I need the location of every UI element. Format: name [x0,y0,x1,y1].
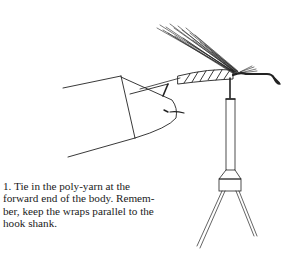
vise-stem-icon [219,99,241,191]
caption-line-1: 1. Tie in the poly-yarn at the [3,180,130,192]
hook-eye-icon [233,73,280,84]
step-caption: 1. Tie in the poly-yarn at the forward e… [3,180,173,230]
body-wraps-icon [178,70,233,84]
poly-yarn-wing-icon [157,24,239,74]
caption-line-2: forward end of the body. Remem- [3,192,155,204]
fingers-icon [63,76,177,157]
vise-legs-icon [197,191,257,248]
caption-line-4: hook shank. [3,217,57,229]
instruction-figure: 1. Tie in the poly-yarn at the forward e… [0,0,301,258]
caption-line-3: ber, keep the wraps parallel to the [3,205,154,217]
